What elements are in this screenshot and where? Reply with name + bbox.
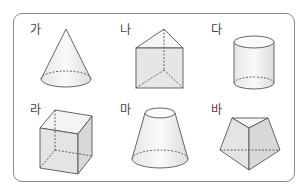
triangular-prism-icon <box>136 29 183 88</box>
pentagonal-pyramid-icon <box>220 118 280 170</box>
frustum-icon <box>132 108 188 168</box>
shapes-canvas <box>0 0 305 194</box>
cylinder-icon <box>234 36 274 89</box>
cone-icon <box>41 29 91 87</box>
cube-icon <box>40 110 92 174</box>
